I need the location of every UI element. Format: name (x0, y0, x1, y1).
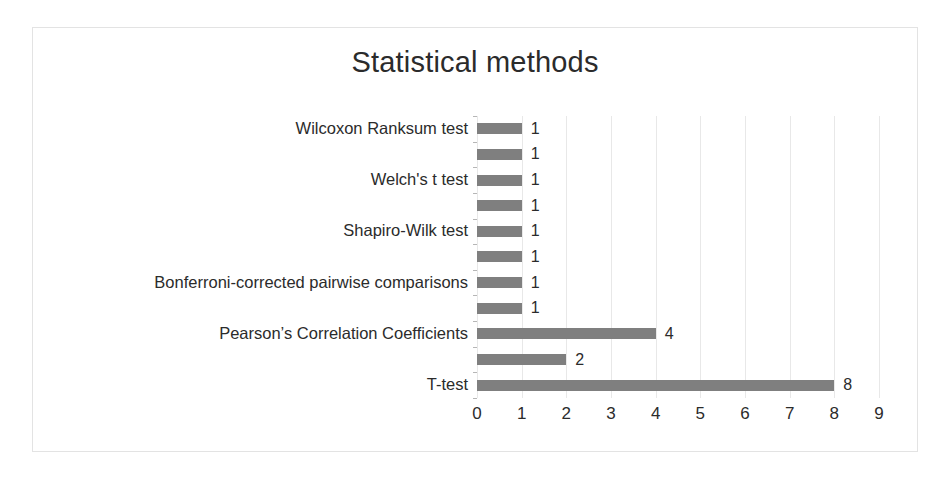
bar[interactable] (477, 200, 522, 211)
bar-row[interactable]: 1 (477, 244, 879, 270)
bar[interactable] (477, 251, 522, 262)
bar-row[interactable]: 1 (477, 295, 879, 321)
x-tick-label: 0 (472, 405, 481, 422)
x-tick-label: 1 (517, 405, 526, 422)
y-axis-category-labels: Wilcoxon Ranksum testWelch's t testShapi… (33, 116, 477, 398)
y-axis-category-label: Welch's t test (371, 171, 468, 188)
bar[interactable] (477, 380, 834, 391)
bar-row[interactable]: 4 (477, 321, 879, 347)
bar[interactable] (477, 328, 656, 339)
bar-row[interactable]: 2 (477, 347, 879, 373)
bar-value-label: 1 (531, 300, 540, 316)
bar[interactable] (477, 277, 522, 288)
x-tick-label: 2 (562, 405, 571, 422)
x-tick-label: 8 (830, 405, 839, 422)
chart-container: Statistical methods Wilcoxon Ranksum tes… (32, 27, 918, 452)
bar[interactable] (477, 149, 522, 160)
bar-row[interactable]: 8 (477, 372, 879, 398)
bar-value-label: 1 (531, 146, 540, 162)
x-tick-label: 4 (651, 405, 660, 422)
y-axis-category-label: Wilcoxon Ranksum test (296, 120, 468, 137)
x-axis-tick-labels: 0123456789 (477, 405, 879, 433)
y-axis-category-label: T-test (427, 376, 468, 393)
bar[interactable] (477, 226, 522, 237)
bar-row[interactable]: 1 (477, 116, 879, 142)
bar-value-label: 1 (531, 275, 540, 291)
gridline (879, 116, 880, 398)
y-axis-tick (473, 398, 477, 399)
bar-value-label: 1 (531, 121, 540, 137)
bar[interactable] (477, 354, 566, 365)
y-axis-category-label: Shapiro-Wilk test (343, 222, 468, 239)
bar-value-label: 1 (531, 223, 540, 239)
x-tick-label: 7 (785, 405, 794, 422)
y-axis-tick (473, 347, 477, 348)
y-axis-tick (473, 219, 477, 220)
bar-row[interactable]: 1 (477, 142, 879, 168)
bar-row[interactable]: 1 (477, 193, 879, 219)
y-axis-category-label: Bonferroni-corrected pairwise comparison… (154, 274, 468, 291)
y-axis-tick (473, 193, 477, 194)
bar-value-label: 1 (531, 172, 540, 188)
bar-value-label: 8 (843, 377, 852, 393)
bar[interactable] (477, 175, 522, 186)
bar-row[interactable]: 1 (477, 219, 879, 245)
x-tick-label: 6 (740, 405, 749, 422)
y-axis-category-label: Pearson’s Correlation Coefficients (219, 325, 468, 342)
x-tick-label: 9 (874, 405, 883, 422)
y-axis-tick (473, 270, 477, 271)
x-tick-label: 3 (606, 405, 615, 422)
bar-value-label: 1 (531, 249, 540, 265)
y-axis-tick (473, 321, 477, 322)
bar-value-label: 1 (531, 198, 540, 214)
bar-row[interactable]: 1 (477, 270, 879, 296)
bar-value-label: 2 (575, 352, 584, 368)
bar-value-label: 4 (665, 326, 674, 342)
bar[interactable] (477, 303, 522, 314)
bar-row[interactable]: 1 (477, 167, 879, 193)
y-axis-tick (473, 244, 477, 245)
y-axis-tick (473, 167, 477, 168)
y-axis-tick (473, 295, 477, 296)
y-axis-tick (473, 372, 477, 373)
chart-title: Statistical methods (33, 46, 917, 79)
y-axis-tick (473, 116, 477, 117)
bar[interactable] (477, 123, 522, 134)
plot-area: 11111111428 (477, 116, 879, 398)
x-tick-label: 5 (696, 405, 705, 422)
y-axis-tick (473, 142, 477, 143)
